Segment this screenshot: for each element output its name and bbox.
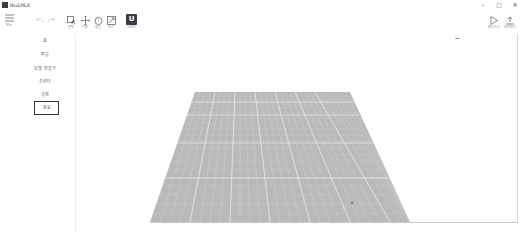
panel-divider — [517, 34, 518, 223]
viewport-bottom-border — [150, 222, 518, 223]
build-plate[interactable] — [0, 0, 526, 232]
